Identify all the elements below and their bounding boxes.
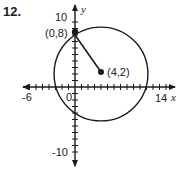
center-point xyxy=(98,69,104,75)
radius-segment xyxy=(75,35,101,72)
coordinate-diagram: 12. -6 0 14 x xyxy=(0,0,185,190)
y-tick-label-10: 10 xyxy=(55,11,67,23)
point-label: (0,8) xyxy=(45,27,68,39)
x-axis: -6 0 14 x xyxy=(22,84,176,104)
x-tick-label-14: 14 xyxy=(155,92,167,104)
point-on-circle xyxy=(72,29,78,35)
origin-label: 0 xyxy=(66,91,72,103)
y-axis-label: y xyxy=(80,3,86,15)
y-tick-label-neg10: -10 xyxy=(52,146,68,158)
center-label: (4,2) xyxy=(107,66,130,78)
problem-number: 12. xyxy=(3,4,21,19)
x-axis-label: x xyxy=(170,91,176,103)
x-tick-label-neg6: -6 xyxy=(22,91,32,103)
